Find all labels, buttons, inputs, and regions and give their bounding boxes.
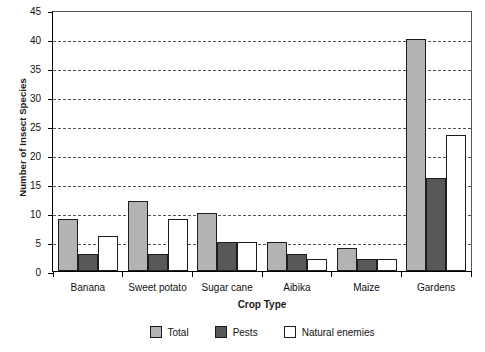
bar-group: Sugar cane	[192, 12, 262, 271]
bar-natural	[98, 236, 118, 271]
x-axis-tick-mark	[122, 271, 123, 277]
bar-group: Sweet potato	[123, 12, 193, 271]
y-axis-tick-label: 40	[7, 36, 41, 46]
y-axis-tick-label: 30	[7, 94, 41, 104]
bar-total	[337, 248, 357, 271]
bar-group: Gardens	[401, 12, 471, 271]
x-axis-tick-mark	[331, 271, 332, 277]
x-axis-tick-mark	[262, 271, 263, 277]
y-axis-tick-label: 10	[7, 210, 41, 220]
y-axis-tick-label: 45	[7, 7, 41, 17]
y-axis-tick-label: 35	[7, 65, 41, 75]
y-axis-tick-label: 25	[7, 123, 41, 133]
x-axis-tick-label: Maize	[332, 282, 402, 293]
x-axis-tick-label: Banana	[53, 282, 123, 293]
bar-pests	[357, 259, 377, 271]
x-axis-tick-mark	[192, 271, 193, 277]
legend-item: Total	[150, 326, 189, 338]
legend-label: Pests	[233, 327, 258, 338]
bar-total	[197, 213, 217, 271]
bar-natural	[307, 259, 327, 271]
bar-groups: BananaSweet potatoSugar caneAibikaMaizeG…	[53, 12, 471, 271]
bar-total	[58, 219, 78, 271]
x-axis-tick-mark	[471, 271, 472, 277]
x-axis-tick-label: Aibika	[262, 282, 332, 293]
y-axis-tick-label: 20	[7, 152, 41, 162]
bar-natural	[237, 242, 257, 271]
legend-label: Total	[168, 327, 189, 338]
y-axis-tick-label: 15	[7, 181, 41, 191]
legend-item: Pests	[215, 326, 258, 338]
x-axis-tick-mark	[53, 271, 54, 277]
bar-group: Aibika	[262, 12, 332, 271]
legend-item: Natural enemies	[284, 326, 375, 338]
bar-pests	[78, 254, 98, 271]
y-axis-tick-label: 5	[7, 239, 41, 249]
bar-group: Maize	[332, 12, 402, 271]
bar-pests	[217, 242, 237, 271]
bar-total	[267, 242, 287, 271]
bar-natural	[446, 135, 466, 271]
x-axis-tick-label: Sugar cane	[192, 282, 262, 293]
x-axis-title: Crop Type	[52, 299, 472, 310]
y-axis-tick-label: 0	[7, 268, 41, 278]
bar-total	[406, 39, 426, 271]
legend-swatch-natural	[284, 326, 296, 338]
x-axis-tick-label: Gardens	[401, 282, 471, 293]
bar-group: Banana	[53, 12, 123, 271]
bar-natural	[168, 219, 188, 271]
bar-natural	[377, 259, 397, 271]
bar-total	[128, 201, 148, 271]
bar-pests	[287, 254, 307, 271]
plot-area: 051015202530354045 BananaSweet potatoSug…	[52, 11, 472, 272]
bar-pests	[426, 178, 446, 271]
x-axis-tick-label: Sweet potato	[123, 282, 193, 293]
legend-swatch-total	[150, 326, 162, 338]
chart-figure: Number of Insect Species 051015202530354…	[0, 0, 485, 352]
chart-legend: TotalPestsNatural enemies	[52, 326, 472, 338]
legend-swatch-pests	[215, 326, 227, 338]
x-axis-tick-mark	[401, 271, 402, 277]
legend-label: Natural enemies	[302, 327, 375, 338]
bar-pests	[148, 254, 168, 271]
